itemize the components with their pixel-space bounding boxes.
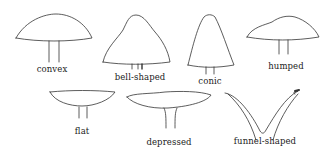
label-conic: conic xyxy=(198,76,221,86)
depressed-cap-shape xyxy=(127,91,211,128)
conic-cap-shape xyxy=(188,15,234,74)
label-convex: convex xyxy=(37,64,68,74)
label-funnel-shaped: funnel-shaped xyxy=(234,136,296,146)
bell-shaped-cap-shape xyxy=(103,15,170,69)
flat-cap-shape xyxy=(50,91,115,119)
cap-shapes-diagram: convex bell-shaped conic humped flat dep… xyxy=(0,0,333,155)
convex-cap-shape xyxy=(16,14,92,62)
label-flat: flat xyxy=(75,126,90,136)
label-depressed: depressed xyxy=(146,137,191,147)
label-humped: humped xyxy=(268,61,304,71)
funnel-shaped-cap-shape xyxy=(225,90,299,140)
label-bell-shaped: bell-shaped xyxy=(115,72,166,82)
humped-cap-shape xyxy=(247,16,319,54)
